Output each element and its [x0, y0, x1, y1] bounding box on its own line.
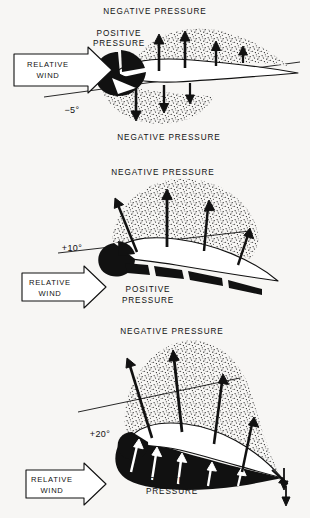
relative-wind-arrow: RELATIVE WIND: [22, 266, 106, 308]
angle-of-attack-label: +10°: [62, 243, 82, 253]
label-negative-pressure-bottom: NEGATIVE PRESSURE: [117, 133, 220, 142]
airfoil-panel-pos20: NEGATIVE PRESSURE: [0, 320, 310, 518]
relative-wind-label-line1: RELATIVE: [29, 278, 71, 287]
label-negative-pressure-top: NEGATIVE PRESSURE: [120, 327, 223, 336]
relative-wind-label-line1: RELATIVE: [27, 60, 69, 69]
label-positive-pressure-line2: PRESSURE: [146, 487, 198, 496]
label-positive-pressure-line1: POSITIVE: [150, 476, 195, 485]
angle-of-attack-label: −5°: [64, 105, 79, 115]
airfoil-panel-pos10: NEGATIVE PRESSURE: [0, 155, 310, 320]
angle-of-attack-label: +20°: [90, 429, 110, 439]
relative-wind-arrow: RELATIVE WIND: [14, 47, 112, 93]
relative-wind-label-line2: WIND: [38, 289, 61, 298]
label-positive-pressure-line1: POSITIVE: [126, 285, 171, 294]
label-positive-pressure-line2: PRESSURE: [122, 296, 174, 305]
figure-canvas: NEGATIVE PRESSURE POSITIVE PRESSURE: [0, 0, 310, 518]
label-positive-pressure-line2: PRESSURE: [93, 39, 145, 48]
label-negative-pressure-top: NEGATIVE PRESSURE: [103, 7, 206, 16]
label-positive-pressure-line1: POSITIVE: [97, 29, 142, 38]
airfoil-panel-neg5: NEGATIVE PRESSURE POSITIVE PRESSURE: [0, 0, 310, 155]
relative-wind-arrow: RELATIVE WIND: [26, 463, 106, 505]
relative-wind-label-line2: WIND: [36, 71, 59, 80]
relative-wind-label-line1: RELATIVE: [31, 475, 73, 484]
label-negative-pressure-top: NEGATIVE PRESSURE: [111, 168, 214, 177]
relative-wind-label-line2: WIND: [40, 486, 63, 495]
